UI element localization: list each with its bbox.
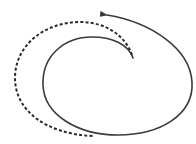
spiral-svg [0, 0, 196, 144]
solid-spiral-path [43, 15, 192, 135]
spiral-diagram [0, 0, 196, 144]
